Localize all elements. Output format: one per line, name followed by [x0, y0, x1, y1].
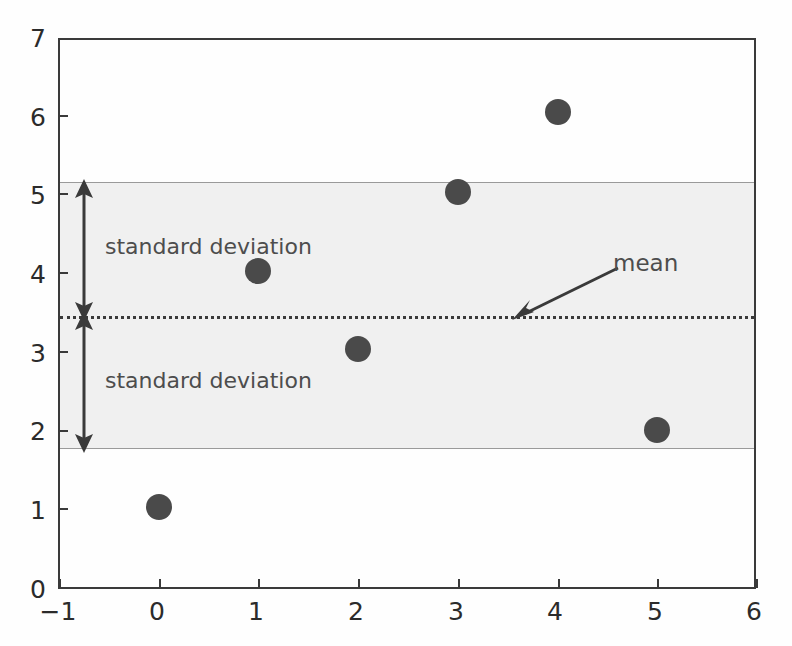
- data-point: [545, 99, 571, 125]
- mean-label: mean: [613, 252, 678, 275]
- y-tick-label-7: 7: [6, 26, 46, 51]
- x-tick-label-4: 4: [525, 599, 585, 624]
- data-point: [245, 258, 271, 284]
- x-tick-label-3: 3: [426, 599, 486, 624]
- mean-annotation-arrow: [508, 262, 624, 324]
- x-tick-1: [258, 579, 260, 588]
- y-tick-label-3: 3: [6, 341, 46, 366]
- y-tick-label-2: 2: [6, 419, 46, 444]
- y-tick-label-1: 1: [6, 498, 46, 523]
- x-tick-neg1: [59, 579, 61, 588]
- data-point: [146, 494, 172, 520]
- x-tick-label-2: 2: [326, 599, 386, 624]
- y-tick-4: [59, 272, 68, 274]
- y-tick-label-4: 4: [6, 262, 46, 287]
- x-tick-3: [458, 579, 460, 588]
- std-dev-arrow-lower: [70, 310, 110, 454]
- y-tick-label-5: 5: [6, 183, 46, 208]
- mean-line: [60, 316, 754, 319]
- x-tick-label-5: 5: [625, 599, 685, 624]
- y-tick-2: [59, 430, 68, 432]
- y-tick-6: [59, 115, 68, 117]
- y-tick-3: [59, 351, 68, 353]
- chart-figure: standard deviation standard deviation me…: [0, 0, 792, 646]
- std-dev-label-lower: standard deviation: [105, 370, 312, 392]
- y-tick-7: [59, 38, 68, 40]
- x-tick-label-neg1: −1: [28, 599, 88, 624]
- x-tick-label-1: 1: [226, 599, 286, 624]
- x-tick-5: [657, 579, 659, 588]
- x-tick-0: [159, 579, 161, 588]
- data-point: [445, 179, 471, 205]
- y-tick-1: [59, 508, 68, 510]
- x-tick-label-0: 0: [127, 599, 187, 624]
- x-tick-2: [358, 579, 360, 588]
- y-tick-label-6: 6: [6, 105, 46, 130]
- plot-area: standard deviation standard deviation me…: [58, 38, 756, 589]
- x-tick-4: [558, 579, 560, 588]
- std-dev-arrow-upper: [70, 178, 110, 322]
- x-tick-label-6: 6: [724, 599, 784, 624]
- x-tick-6: [756, 579, 758, 588]
- std-dev-label-upper: standard deviation: [105, 236, 312, 258]
- y-tick-5: [59, 193, 68, 195]
